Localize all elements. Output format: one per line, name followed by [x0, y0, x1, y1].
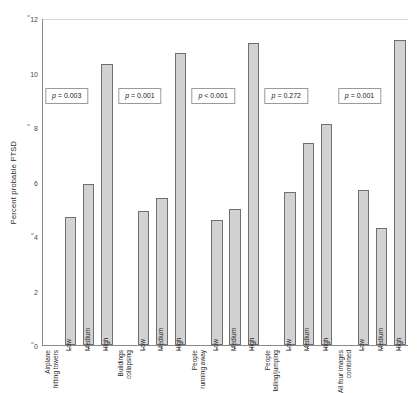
- x-group-label-text: All four imagescombined: [336, 350, 351, 393]
- bar-3-high: [248, 43, 259, 345]
- pvalue-box-5: p = 0.001: [338, 88, 381, 104]
- bar-3-low: [211, 220, 222, 345]
- x-group-label-text: Peoplefalling/jumping: [263, 350, 278, 392]
- bar-2-low: [138, 211, 149, 345]
- bar-1-high: [101, 64, 112, 345]
- y-tick-mark: [27, 125, 30, 126]
- y-tick-label: 10: [30, 70, 43, 77]
- bar-1-low: [65, 217, 76, 345]
- bar-2-high: [175, 53, 186, 345]
- x-group-label-text: Peoplerunning away: [190, 350, 205, 389]
- y-tick-label: 2: [34, 288, 43, 295]
- bar-5-high: [394, 40, 405, 345]
- bar-1-medium: [83, 184, 94, 345]
- pvalue-box-3: p < 0.001: [191, 88, 234, 104]
- x-group-label-text: Airplanehitting towers: [44, 350, 59, 388]
- y-axis-title: Percent probable PTSD: [7, 19, 19, 346]
- pvalue-box-4: p = 0.272: [265, 88, 308, 104]
- y-tick-label: 12: [30, 16, 43, 23]
- y-tick-mark: [31, 343, 34, 344]
- pvalue-box-1: p = 0.003: [45, 88, 88, 104]
- bar-3-medium: [229, 209, 240, 345]
- pvalue-box-2: p = 0.001: [118, 88, 161, 104]
- bar-4-high: [321, 124, 332, 345]
- y-tick-label: 8: [34, 125, 43, 132]
- y-tick-label: 4: [34, 234, 43, 241]
- bar-2-medium: [156, 198, 167, 345]
- y-tick-mark: [27, 16, 30, 17]
- y-tick-mark: [31, 234, 34, 235]
- y-tick-label: 0: [34, 343, 43, 350]
- x-group-label-text: Buildingscollapsing: [117, 350, 132, 379]
- bar-5-low: [358, 190, 369, 345]
- bar-chart: Percent probable PTSD 024681012 p = 0.00…: [0, 0, 420, 393]
- bar-4-low: [284, 192, 295, 345]
- bar-4-medium: [303, 143, 314, 345]
- y-tick-label: 6: [34, 179, 43, 186]
- plot-area: 024681012: [42, 19, 408, 346]
